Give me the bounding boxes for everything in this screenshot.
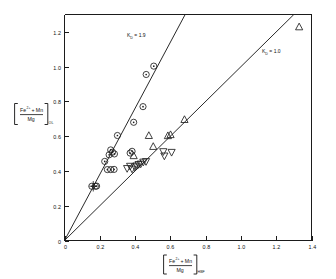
x-title-superscript: 2+ xyxy=(176,257,180,261)
y-tick-label: 0.6 xyxy=(53,134,61,140)
marker-center-dot xyxy=(142,106,144,108)
plot-background xyxy=(0,0,336,279)
marker-center-dot xyxy=(104,161,106,163)
kd-1-0-value: = 1.0 xyxy=(269,48,280,54)
marker-center-dot xyxy=(145,74,147,76)
y-tick-label: 0.8 xyxy=(53,99,61,105)
x-tick-label: 1.0 xyxy=(238,244,246,250)
y-tick-label: 0.2 xyxy=(53,204,61,210)
marker-center-dot xyxy=(113,169,115,171)
scatter-plot-svg: 00.20.40.60.81.01.21.400.20.40.60.81.01.… xyxy=(0,0,336,279)
kd-1-9-subscript: D xyxy=(130,36,133,40)
y-tick-label: 1.0 xyxy=(53,65,61,71)
y-title-denominator: Mg xyxy=(27,116,34,122)
y-title-superscript: 2+ xyxy=(27,106,31,110)
x-title-numerator: Fe xyxy=(169,258,175,264)
x-tick-label: 0.4 xyxy=(132,244,140,250)
marker-center-dot xyxy=(131,150,133,152)
x-tick-label: 1.4 xyxy=(309,244,317,250)
y-tick-label: 0.4 xyxy=(53,169,61,175)
x-tick-label: 0.8 xyxy=(203,244,211,250)
marker-center-dot xyxy=(133,121,135,123)
marker-center-dot xyxy=(153,65,155,67)
figure-container: 00.20.40.60.81.01.21.400.20.40.60.81.01.… xyxy=(0,0,336,279)
y-title-subscript: OL xyxy=(49,121,54,125)
x-tick-label: 0 xyxy=(64,244,67,250)
y-title-numerator: Fe xyxy=(20,107,26,113)
x-title-subscript: HBF xyxy=(198,270,206,274)
x-title-numerator-plus: + Mn xyxy=(180,258,192,264)
marker-center-dot xyxy=(117,135,119,137)
x-tick-label: 0.6 xyxy=(167,244,175,250)
y-title-numerator-plus: + Mn xyxy=(31,107,43,113)
kd-1-9-value: = 1.9 xyxy=(134,32,145,38)
x-tick-label: 0.2 xyxy=(97,244,105,250)
marker-center-dot xyxy=(114,153,116,155)
x-tick-label: 1.2 xyxy=(273,244,281,250)
kd-1-0-subscript: D xyxy=(265,52,268,56)
x-title-denominator: Mg xyxy=(176,267,183,273)
y-tick-label: 0 xyxy=(58,239,61,245)
y-tick-label: 1.2 xyxy=(53,30,61,36)
